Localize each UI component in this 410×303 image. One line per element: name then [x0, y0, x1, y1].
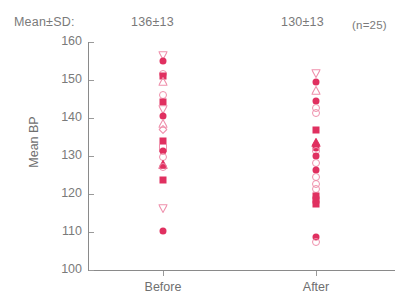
series-after	[0, 0, 410, 303]
data-point-circle-open	[312, 109, 320, 117]
data-point-circle-open	[312, 238, 320, 246]
data-point-triangle-up-open	[312, 81, 321, 99]
plot-area: Mean BP 100110120130140150160 BeforeAfte…	[0, 0, 410, 303]
chart-root: Mean±SD: 136±13 130±13 (n=25) Mean BP 10…	[0, 0, 410, 303]
data-point-square-filled	[313, 200, 320, 207]
